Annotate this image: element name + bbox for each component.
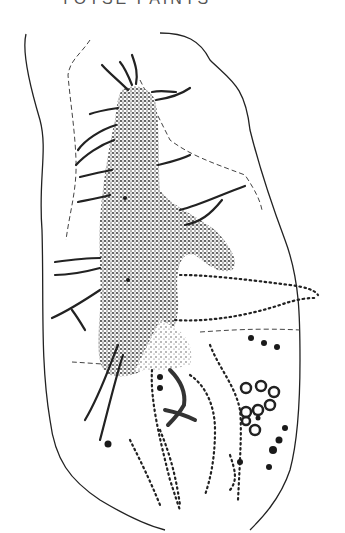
rock-art-drawing [0, 0, 345, 533]
x-mark [165, 370, 195, 425]
ring-circles [241, 381, 279, 435]
